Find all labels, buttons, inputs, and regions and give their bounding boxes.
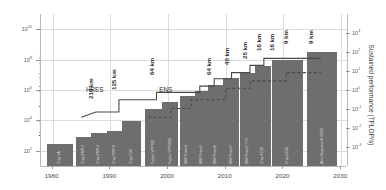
- bar[interactable]: Atos Sequana XH2000: [307, 52, 337, 166]
- x-tick-mark: [109, 166, 110, 169]
- x-tick-label: 1990: [102, 172, 116, 179]
- y-tick-label-right: 102: [352, 49, 360, 55]
- bar-label: IBM Power7 775: [245, 138, 249, 164]
- gridline-horizontal: [41, 29, 347, 30]
- x-tick-label: 2020: [276, 172, 290, 179]
- bar-label: IBM Power6: [213, 145, 217, 164]
- y-tick-mark-right: [346, 128, 350, 129]
- y-tick-mark-left: [36, 29, 40, 30]
- resolution-annotation: 16 km: [255, 34, 262, 51]
- bar[interactable]: IBM Power5: [195, 91, 209, 166]
- resolution-annotation: 25 km: [241, 41, 248, 58]
- plot-area: Cray 1ACray XMP-2Cray XMP-4Cray YMP-8Cra…: [40, 14, 348, 166]
- resolution-annotation: 125 km: [110, 69, 117, 90]
- x-tick-mark: [52, 166, 53, 169]
- bar[interactable]: Cray XMP-2: [76, 137, 92, 166]
- y-tick-mark-left: [36, 151, 40, 152]
- y-tick-label-right: 101: [352, 68, 360, 74]
- y-tick-mark-right: [346, 33, 350, 34]
- bar[interactable]: Fujitsu VPP5000: [162, 102, 178, 166]
- y-tick-label-right: 10-1: [352, 106, 361, 112]
- bar-label: IBM Power4: [184, 145, 188, 164]
- y-tick-mark-right: [346, 52, 350, 53]
- x-tick-label: 2010: [218, 172, 232, 179]
- bar-label: Cray XC30: [260, 147, 264, 164]
- resolution-annotation: 16 km: [268, 34, 275, 51]
- bar-label: Cray XMP-4: [96, 145, 100, 164]
- bar[interactable]: Fujitsu VPP700: [145, 109, 163, 166]
- x-tick-label: 1980: [45, 172, 59, 179]
- x-tick-mark: [282, 166, 283, 169]
- x-axis-line: [40, 166, 346, 167]
- resolution-annotation: 9 km: [307, 30, 314, 44]
- bar[interactable]: Cray YMP-8: [107, 131, 122, 166]
- bar[interactable]: Cray XMP-4: [91, 133, 108, 167]
- y-tick-mark-right: [346, 71, 350, 72]
- resolution-annotation: 64 km: [205, 58, 212, 75]
- series-label-ens: ENS: [159, 86, 172, 93]
- series-label-hres: HRES: [86, 86, 104, 93]
- y-tick-mark-left: [36, 120, 40, 121]
- y-tick-label-left: 106: [8, 87, 32, 93]
- y-axis-label-right: Sustained performance (TFLOP/s): [368, 20, 375, 170]
- bar[interactable]: Cray XC30: [255, 66, 271, 166]
- y-tick-label-right: 103: [352, 30, 360, 36]
- resolution-annotation: 64 km: [148, 58, 155, 75]
- y-tick-label-left: 102: [8, 148, 32, 154]
- x-tick-mark: [167, 166, 168, 169]
- bar[interactable]: Cray XC40: [272, 60, 303, 166]
- bar-label: Cray XMP-2: [81, 145, 85, 164]
- bar-label: IBM Power7: [229, 145, 233, 164]
- x-tick-mark: [225, 166, 226, 169]
- bar-label: Cray C90: [129, 149, 133, 164]
- x-tick-label: 2030: [333, 172, 347, 179]
- bar-label: IBM Power5: [199, 145, 203, 164]
- bar-label: Fujitsu VPP700: [151, 140, 155, 164]
- gridline-vertical: [341, 14, 342, 166]
- y-tick-label-right: 100: [352, 87, 360, 93]
- bar[interactable]: Cray 1A: [47, 144, 74, 166]
- bar[interactable]: IBM Power4: [180, 96, 195, 166]
- chart-container: Number of model grid points Sustained pe…: [0, 0, 386, 190]
- bar-label: Cray 1A: [57, 151, 61, 164]
- y-tick-mark-left: [36, 90, 40, 91]
- y-tick-mark-right: [346, 109, 350, 110]
- bar[interactable]: IBM Power7: [223, 78, 239, 166]
- y-tick-label-left: 108: [8, 57, 32, 63]
- y-tick-label-right: 10-3: [352, 144, 361, 150]
- y-tick-mark-right: [346, 90, 350, 91]
- y-tick-label-left: 1010: [8, 26, 32, 32]
- x-tick-label: 2000: [160, 172, 174, 179]
- bar[interactable]: Cray C90: [122, 121, 141, 166]
- bar-label: Atos Sequana XH2000: [320, 128, 324, 164]
- bar-label: Cray YMP-8: [112, 145, 116, 164]
- y-tick-mark-right: [346, 147, 350, 148]
- y-tick-label-right: 10-2: [352, 125, 361, 131]
- bar-label: Cray XC40: [285, 147, 289, 164]
- y-tick-label-left: 104: [8, 117, 32, 123]
- resolution-annotation: 40 km: [223, 48, 230, 65]
- bar-label: Fujitsu VPP5000: [168, 138, 172, 164]
- resolution-annotation: 9 km: [282, 30, 289, 44]
- bar[interactable]: IBM Power7 775: [240, 73, 256, 166]
- bar[interactable]: IBM Power6: [208, 85, 222, 166]
- y-tick-mark-left: [36, 60, 40, 61]
- x-tick-mark: [340, 166, 341, 169]
